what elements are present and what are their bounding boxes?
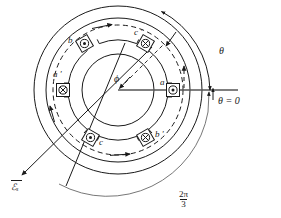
conductor-c-prime <box>137 35 155 53</box>
two-pi-over-three-label: 2π 3 <box>179 190 188 210</box>
flux-arrow-top <box>92 25 112 29</box>
conductor-b-prime <box>137 129 155 147</box>
conductor-b-prime-label: b ′ <box>155 130 164 139</box>
conductor-c <box>82 129 100 147</box>
machine-cross-section-figure: a a ′ b b ′ c c ′ ϕ θ = 0 θ 2π 3 ℰs <box>0 0 281 218</box>
current-out-of-page-dot <box>83 42 86 45</box>
mmf-subscript: s <box>16 186 18 192</box>
conductor-a-prime-label: a ′ <box>53 70 62 79</box>
conductor-c-prime-label: c ′ <box>134 28 142 37</box>
two-pi-over-three-denominator: 3 <box>179 200 188 209</box>
conductor-b <box>76 35 94 53</box>
phi-label: ϕ <box>114 74 119 84</box>
flux-arrow-upper-right <box>166 32 176 46</box>
vector-overline <box>11 180 22 181</box>
flux-arrow-bottom <box>110 154 130 155</box>
conductor-a-label: a <box>160 78 165 87</box>
mmf-vector-line <box>22 49 150 175</box>
conductor-c-label: c <box>99 138 103 147</box>
current-out-of-page-dot <box>172 89 175 92</box>
conductor-a-prime <box>57 84 70 97</box>
conductor-a <box>167 84 180 97</box>
current-out-of-page-dot <box>89 136 92 139</box>
theta-angle-label: θ <box>219 46 224 56</box>
two-pi-over-three-numerator: 2π <box>179 190 188 199</box>
two-pi-third-arc-end-arrow <box>208 92 209 112</box>
mmf-vector-label: ℰs <box>11 180 22 192</box>
theta-zero-axis-label: θ = 0 <box>218 96 240 106</box>
conductor-b-label: b <box>68 36 73 45</box>
phi-reference-dashed-line <box>120 45 163 88</box>
